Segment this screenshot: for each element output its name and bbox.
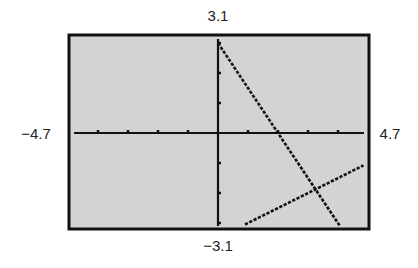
graph-screen — [0, 0, 418, 268]
